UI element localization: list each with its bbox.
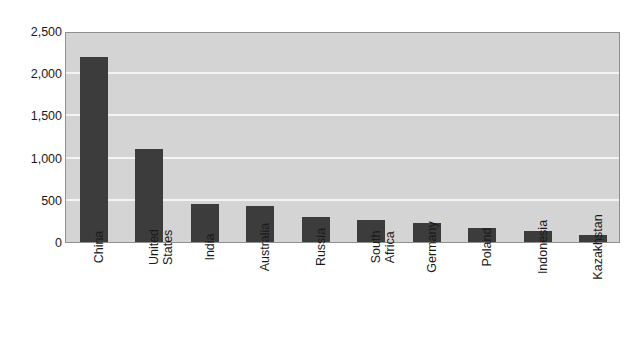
x-tick: India <box>190 245 218 337</box>
x-tick: Australia <box>245 245 273 337</box>
x-tick-label: Germany <box>426 221 440 272</box>
x-tick: Germany <box>412 245 440 337</box>
x-tick: Russia <box>301 245 329 337</box>
y-axis: 05001,0001,5002,0002,500 <box>0 0 62 337</box>
plot-area <box>65 32 620 243</box>
x-tick-label: Australia <box>259 223 273 272</box>
bar-chart: 05001,0001,5002,0002,500 ChinaUnited Sta… <box>0 0 642 337</box>
x-tick-label: Poland <box>481 228 495 267</box>
x-tick-label: China <box>93 231 107 264</box>
x-tick: Kazakhstan <box>578 245 606 337</box>
x-tick: South Africa <box>356 245 384 337</box>
x-tick-label: Indonesia <box>537 220 551 274</box>
x-tick-label: Kazakhstan <box>592 214 606 279</box>
x-axis: ChinaUnited StatesIndiaAustraliaRussiaSo… <box>65 245 620 337</box>
y-tick-label: 1,000 <box>4 153 62 165</box>
y-tick-label: 2,500 <box>4 26 62 38</box>
x-tick: China <box>79 245 107 337</box>
x-tick: Poland <box>467 245 495 337</box>
bar-series <box>66 33 619 242</box>
x-tick-label: United States <box>148 229 175 265</box>
y-tick-label: 0 <box>4 237 62 249</box>
x-tick-label: South Africa <box>370 231 397 264</box>
x-tick: United States <box>134 245 162 337</box>
x-tick-label: India <box>204 233 218 260</box>
y-tick-label: 1,500 <box>4 110 62 122</box>
x-tick: Indonesia <box>523 245 551 337</box>
y-tick-label: 500 <box>4 195 62 207</box>
y-tick-label: 2,000 <box>4 68 62 80</box>
x-tick-label: Russia <box>315 228 329 266</box>
bar <box>80 57 108 242</box>
